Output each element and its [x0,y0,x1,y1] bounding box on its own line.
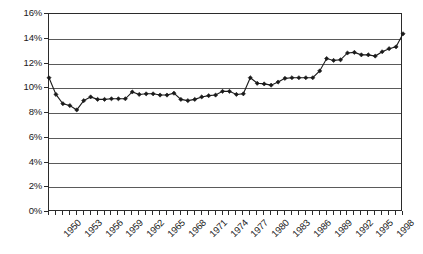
x-axis-tick-mark [152,211,153,215]
y-axis-tick-label: 4% [2,157,42,166]
data-point-marker [325,56,329,60]
x-axis-tick-label: 1992 [352,217,374,239]
data-point-marker [283,76,287,80]
x-axis-tick-label: 1962 [144,217,166,239]
data-point-marker [144,92,148,96]
x-axis-tick-mark [326,211,327,215]
data-point-marker [220,89,224,93]
x-axis-tick-mark [402,211,403,215]
data-point-marker [89,95,93,99]
x-axis-tick-mark [270,211,271,215]
x-axis-tick-mark [69,211,70,215]
line-series [49,14,403,212]
x-axis-tick-mark [395,211,396,215]
x-axis-tick-mark [298,211,299,215]
x-axis-tick-mark [124,211,125,215]
data-point-marker [297,76,301,80]
data-point-marker [186,99,190,103]
data-point-marker [276,80,280,84]
y-axis-tick-label: 8% [2,107,42,116]
x-axis-tick-mark [110,211,111,215]
data-point-marker [366,53,370,57]
data-point-marker [165,93,169,97]
x-axis-tick-mark [353,211,354,215]
x-axis-tick-mark [131,211,132,215]
x-axis-tick-mark [90,211,91,215]
data-point-marker [200,95,204,99]
x-axis-tick-label: 1986 [311,217,333,239]
data-point-marker [109,97,113,101]
x-axis-tick-mark [340,211,341,215]
y-axis-tick-label: 14% [2,33,42,42]
x-axis-tick-mark [381,211,382,215]
data-point-marker [227,89,231,93]
plot-area [48,13,402,211]
data-point-marker [207,94,211,98]
x-axis-tick-label: 1983 [290,217,312,239]
data-point-marker [137,92,141,96]
x-axis-tick-mark [291,211,292,215]
x-axis-tick-mark [48,211,49,215]
x-axis-tick-mark [360,211,361,215]
x-axis-tick-mark [374,211,375,215]
x-axis-tick-mark [201,211,202,215]
data-point-marker [241,92,245,96]
x-axis-tick-mark [83,211,84,215]
data-point-marker [394,45,398,49]
y-axis-tick-label: 6% [2,132,42,141]
data-point-marker [47,76,51,80]
y-axis-tick-label: 2% [2,181,42,190]
x-axis-tick-mark [97,211,98,215]
y-axis-tick-label: 12% [2,58,42,67]
x-axis-tick-label: 1974 [228,217,250,239]
x-axis-tick-mark [194,211,195,215]
x-axis-tick-mark [180,211,181,215]
x-axis-tick-label: 1965 [165,217,187,239]
x-axis-tick-mark [333,211,334,215]
x-axis-tick-label: 1995 [373,217,395,239]
x-axis-tick-label: 1950 [61,217,83,239]
x-axis-tick-mark [277,211,278,215]
x-axis-tick-mark [159,211,160,215]
x-axis-tick-mark [256,211,257,215]
x-axis-tick-mark [117,211,118,215]
x-axis-tick-mark [249,211,250,215]
x-axis-tick-mark [228,211,229,215]
y-axis-tick-label: 10% [2,82,42,91]
y-axis-tick-label: 0% [2,206,42,215]
x-axis-tick-mark [55,211,56,215]
x-axis-tick-label: 1971 [207,217,229,239]
x-axis-tick-label: 1977 [248,217,270,239]
data-point-marker [352,50,356,54]
data-point-marker [95,97,99,101]
x-axis-tick-label: 1953 [82,217,104,239]
x-axis-tick-mark [173,211,174,215]
x-axis-tick-mark [284,211,285,215]
data-point-marker [234,92,238,96]
x-axis-tick-mark [187,211,188,215]
data-point-marker [401,32,405,36]
x-axis-tick-mark [76,211,77,215]
data-point-marker [213,93,217,97]
x-axis-tick-mark [367,211,368,215]
y-axis-tick-label: 16% [2,8,42,17]
data-point-marker [304,76,308,80]
x-axis-tick-mark [346,211,347,215]
data-point-marker [158,93,162,97]
data-point-marker [359,53,363,57]
x-axis-tick-mark [138,211,139,215]
x-axis-tick-mark [305,211,306,215]
data-point-marker [387,47,391,51]
data-point-marker [262,82,266,86]
x-axis-tick-mark [145,211,146,215]
x-axis-tick-mark [263,211,264,215]
data-point-marker [269,83,273,87]
data-point-marker [290,76,294,80]
x-axis-tick-mark [235,211,236,215]
data-point-marker [331,58,335,62]
x-axis-tick-mark [62,211,63,215]
x-axis-tick-mark [208,211,209,215]
x-axis-tick-label: 1998 [394,217,416,239]
data-point-marker [116,97,120,101]
x-axis-tick-mark [215,211,216,215]
